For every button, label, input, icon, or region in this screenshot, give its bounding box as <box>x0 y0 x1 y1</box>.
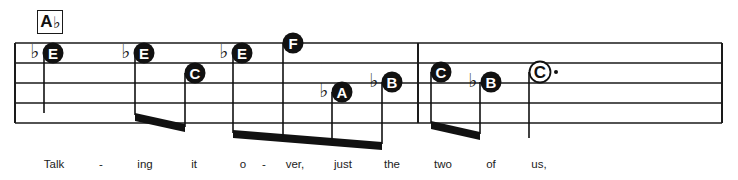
lyric-syllable: o <box>240 158 246 170</box>
flat-icon: ♭ <box>320 79 329 101</box>
note-letter: A <box>337 84 348 101</box>
note-letter: B <box>486 74 497 91</box>
flat-icon: ♭ <box>220 40 229 62</box>
lyric-syllable: it <box>191 158 197 170</box>
lyric-syllable: - <box>99 158 103 170</box>
flat-icon: ♭ <box>370 69 379 91</box>
lyric-syllable: us, <box>531 158 546 170</box>
note-letter: C <box>436 64 447 81</box>
note-letter: F <box>288 35 297 52</box>
beam <box>233 130 382 150</box>
lyric-syllable: of <box>486 158 496 170</box>
lyric-syllable: - <box>262 158 266 170</box>
flat-icon: ♭ <box>31 40 40 62</box>
music-staff: E♭E♭CE♭FA♭B♭CB♭C <box>0 0 738 180</box>
lyric-syllable: Talk <box>44 158 64 170</box>
note-letter: E <box>48 45 58 62</box>
note-letter: E <box>139 45 149 62</box>
note-letter: C <box>190 65 201 82</box>
lyric-syllable: the <box>384 158 400 170</box>
beam <box>135 113 185 132</box>
flat-icon: ♭ <box>469 69 478 91</box>
lyric-syllable: two <box>434 158 452 170</box>
lyric-syllable: just <box>334 158 352 170</box>
note-letter: E <box>237 45 247 62</box>
lyric-syllable: ing <box>137 158 152 170</box>
note-letter: B <box>387 74 398 91</box>
flat-icon: ♭ <box>122 40 131 62</box>
beam <box>431 121 480 140</box>
lyric-syllable: ver, <box>286 158 305 170</box>
note-letter: C <box>534 63 546 82</box>
dot-icon <box>554 70 558 74</box>
